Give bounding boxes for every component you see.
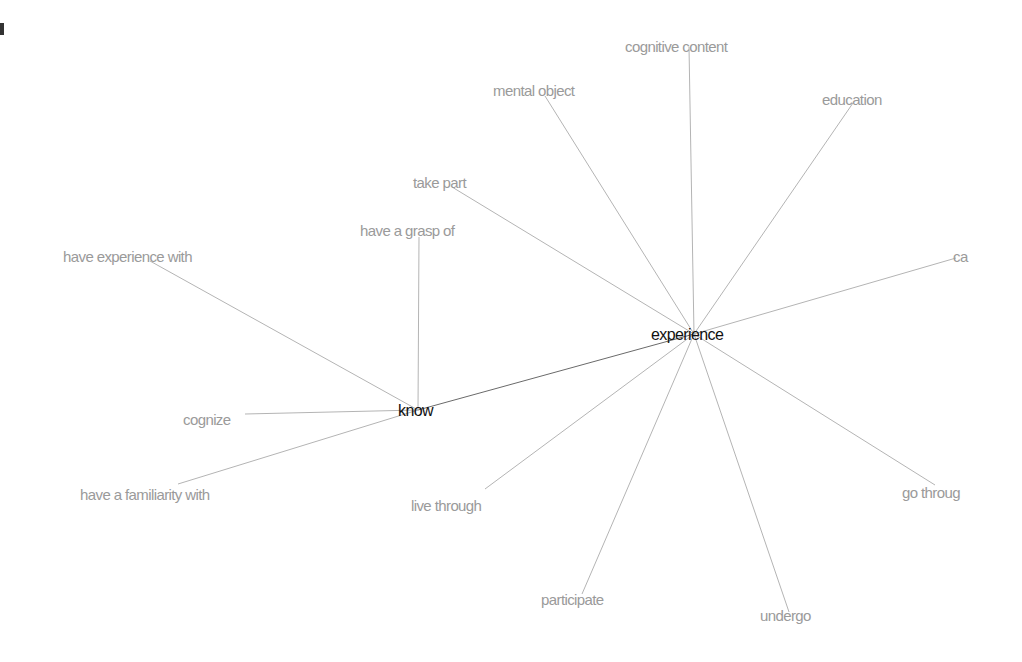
node-education[interactable]: education [822, 92, 882, 107]
edge-experience-take-part [452, 187, 694, 334]
node-go-through[interactable]: go throug [902, 485, 960, 500]
edge-experience-cognitive-content [689, 47, 694, 334]
node-know[interactable]: know [398, 403, 433, 419]
edge-experience-participate [582, 334, 694, 594]
edge-experience-mental-object [545, 96, 694, 334]
edge-know-have-a-grasp-of [418, 237, 419, 410]
node-have-a-familiarity-with[interactable]: have a familiarity with [80, 487, 210, 502]
node-take-part[interactable]: take part [413, 175, 466, 190]
node-have-experience-with[interactable]: have experience with [63, 249, 192, 264]
node-undergo[interactable]: undergo [760, 608, 811, 623]
graph-canvas[interactable]: experienceknowcognitive contentmental ob… [0, 0, 972, 662]
edge-experience-know [418, 334, 694, 410]
edge-experience-go-through [694, 334, 935, 485]
edge-experience-education [694, 103, 853, 334]
node-participate[interactable]: participate [541, 592, 604, 607]
edge-know-cognize [245, 410, 418, 414]
node-live-through[interactable]: live through [411, 498, 481, 513]
node-mental-object[interactable]: mental object [493, 83, 574, 98]
node-experience[interactable]: experience [651, 327, 723, 343]
node-cognitive-content[interactable]: cognitive content [625, 39, 727, 54]
edge-experience-ca [694, 258, 956, 334]
edge-know-have-experience-with [150, 261, 418, 410]
node-have-a-grasp-of[interactable]: have a grasp of [360, 223, 454, 238]
edge-experience-undergo [694, 334, 789, 612]
node-cognize[interactable]: cognize [183, 412, 231, 427]
node-ca[interactable]: ca [953, 249, 968, 264]
edge-experience-live-through [485, 334, 694, 489]
